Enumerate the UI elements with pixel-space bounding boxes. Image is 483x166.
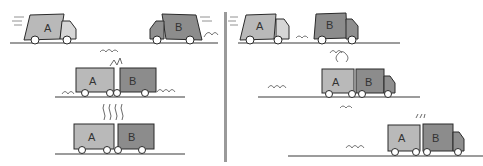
- frame-2-impact: A B: [258, 52, 420, 109]
- truck-b: B: [314, 13, 358, 44]
- truck-b-label: B: [432, 132, 439, 144]
- frame-3-crushed: A B: [55, 104, 185, 154]
- truck-b-label: B: [175, 21, 182, 33]
- truck-a-label: A: [256, 20, 264, 32]
- truck-a-label: A: [89, 75, 97, 87]
- frame-1-approaching: A B: [228, 13, 400, 53]
- truck-a: A: [74, 124, 114, 154]
- truck-b: B: [150, 14, 218, 44]
- truck-a-label: A: [332, 76, 340, 88]
- panel-divider: [224, 12, 227, 162]
- head-on-collision-drawing: A B A B: [0, 0, 222, 166]
- truck-b-label: B: [326, 19, 333, 31]
- truck-b-label: B: [365, 76, 372, 88]
- frame-1-approaching: A B: [10, 14, 218, 52]
- right-panel-rear-end: A B A B: [228, 0, 483, 166]
- truck-a: A: [76, 68, 114, 97]
- left-panel-head-on: A B A B: [0, 0, 222, 166]
- truck-a: A: [388, 125, 420, 156]
- truck-a-label: A: [88, 131, 96, 143]
- frame-2-impact: A B: [55, 58, 185, 97]
- truck-a-label: A: [398, 132, 406, 144]
- truck-b: B: [114, 68, 157, 97]
- truck-b-label: B: [128, 131, 135, 143]
- truck-a: A: [322, 69, 356, 98]
- frame-3-pushed-together: A B: [288, 114, 483, 156]
- truck-b: B: [356, 69, 395, 98]
- rear-end-collision-drawing: A B A B: [228, 0, 483, 166]
- truck-a: A: [228, 14, 289, 44]
- truck-a: A: [12, 14, 76, 44]
- truck-a-label: A: [44, 22, 52, 34]
- truck-b: B: [423, 124, 464, 156]
- truck-b-label: B: [129, 75, 136, 87]
- truck-b: B: [115, 124, 155, 154]
